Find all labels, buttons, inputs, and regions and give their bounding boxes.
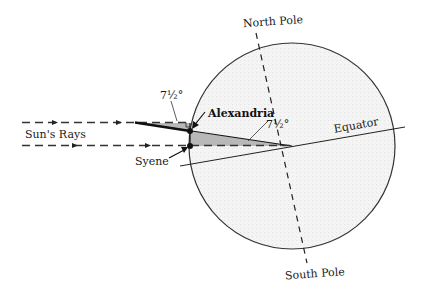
angle-center-label: 7½° [266, 118, 289, 131]
eratosthenes-diagram: North Pole South Pole Equator Sun's Rays… [0, 0, 423, 296]
syene-pointer-arrow-icon [181, 147, 188, 153]
north-pole-label: North Pole [242, 13, 303, 30]
arrow-icon [52, 120, 58, 125]
angle-alexandria-label: 7½° [160, 89, 183, 102]
south-pole-label: South Pole [285, 265, 346, 282]
arrow-icon [72, 143, 78, 148]
angle-alexandria-leader [171, 101, 177, 121]
arrow-icon [145, 143, 151, 148]
suns-rays-label: Sun's Rays [25, 128, 86, 141]
arrow-icon [116, 120, 122, 125]
alexandria-label: Alexandria [207, 107, 274, 120]
syene-label: Syene [135, 155, 169, 168]
syene-point [187, 143, 193, 149]
